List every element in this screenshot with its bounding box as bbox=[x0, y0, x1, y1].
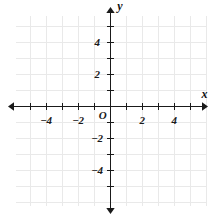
y-axis-arrow-down bbox=[106, 208, 114, 214]
coordinate-plane-figure: −4−22442−2−4Oxy bbox=[0, 0, 218, 221]
axes-layer bbox=[0, 0, 218, 221]
y-axis-arrow-up bbox=[106, 7, 114, 13]
x-axis-arrow-right bbox=[202, 102, 208, 110]
axis-lines bbox=[8, 7, 208, 214]
x-axis-arrow-left bbox=[8, 102, 14, 110]
